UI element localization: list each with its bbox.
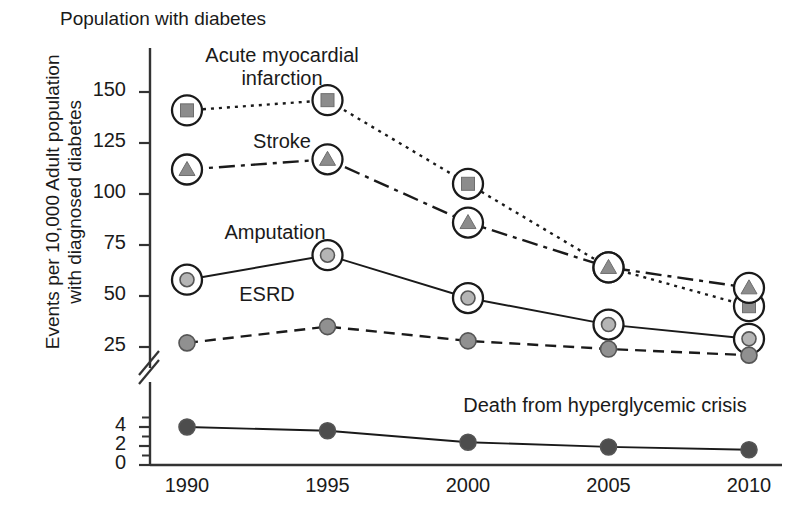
data-point-1-1990 [172,155,202,185]
square-marker [321,94,334,107]
circle-marker [460,333,476,349]
x-tick-label-1990: 1990 [142,474,232,497]
tick-marks-group [139,92,150,465]
x-tick-label-1995: 1995 [283,474,373,497]
data-point-4-2000 [460,434,476,450]
y-tick-label-150: 150 [80,78,126,101]
circle-marker [320,423,336,439]
circle-marker [320,319,336,335]
y-tick-label-25: 25 [80,333,126,356]
circle-marker [180,273,194,287]
data-point-1-2010 [734,273,764,303]
circle-marker [601,341,617,357]
data-point-4-2005 [601,439,617,455]
data-point-2-1990 [172,265,202,295]
square-marker [462,177,475,190]
circle-marker [460,434,476,450]
series-line-0 [187,100,749,306]
y-tick-label-125: 125 [80,129,126,152]
circle-marker [179,419,195,435]
data-point-0-1990 [172,95,202,125]
data-point-4-1995 [320,423,336,439]
data-point-2-2000 [453,283,483,313]
data-point-0-2000 [453,169,483,199]
circle-marker [461,291,475,305]
data-point-4-2010 [741,442,757,458]
y-tick-label-lower-0: 0 [80,451,126,474]
x-tick-label-2000: 2000 [423,474,513,497]
axes-group [139,48,782,465]
square-marker [181,104,194,117]
circle-marker [601,439,617,455]
circle-marker [741,347,757,363]
circle-marker [602,318,616,332]
data-point-1-1995 [313,144,343,174]
data-point-3-1995 [320,319,336,335]
data-point-0-1995 [313,85,343,115]
data-point-1-2000 [453,208,483,238]
circle-marker [742,332,756,346]
x-tick-label-2010: 2010 [704,474,794,497]
data-point-3-1990 [179,335,195,351]
chart-container: Population with diabetes Events per 10,0… [0,0,801,528]
data-point-3-2000 [460,333,476,349]
y-tick-label-50: 50 [80,282,126,305]
data-point-3-2010 [741,347,757,363]
data-point-2-2005 [594,310,624,340]
series-lines-group [187,100,749,450]
data-point-2-1995 [313,240,343,270]
circle-marker [321,248,335,262]
data-point-4-1990 [179,419,195,435]
y-tick-label-100: 100 [80,180,126,203]
data-point-1-2005 [594,252,624,282]
x-tick-label-2005: 2005 [564,474,654,497]
y-tick-label-75: 75 [80,231,126,254]
circle-marker [179,335,195,351]
series-markers-group [172,85,764,458]
data-point-3-2005 [601,341,617,357]
circle-marker [741,442,757,458]
